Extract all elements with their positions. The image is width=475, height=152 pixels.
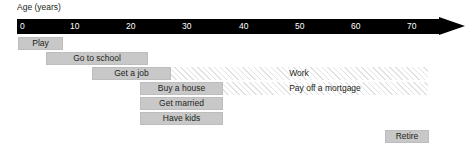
bar-label-retire: Retire: [385, 130, 429, 143]
axis-tick-label-50: 50: [295, 21, 304, 32]
axis-title: Age (years): [17, 2, 61, 13]
right-arrow-icon: [439, 17, 465, 35]
bar-label-play: Play: [18, 37, 63, 50]
bar-label-go-to-school: Go to school: [46, 52, 148, 65]
axis-tick-label-60: 60: [351, 21, 360, 32]
timeline-row-get-a-job-work: Get a job Work: [0, 67, 475, 80]
bar-label-buy-a-house: Buy a house: [140, 82, 223, 95]
bar-label-get-married: Get married: [140, 97, 223, 110]
axis-tick-label-70: 70: [407, 21, 416, 32]
timeline-row-retire: Retire: [0, 130, 475, 143]
axis-tick-label-40: 40: [239, 21, 248, 32]
axis-tick-label-10: 10: [70, 21, 79, 32]
life-events-timeline-figure: Age (years) 0 10 20 30 40 50 60 70 Play …: [0, 0, 475, 152]
age-axis: 0 10 20 30 40 50 60 70: [17, 17, 465, 36]
bar-label-pay-off-a-mortgage: Pay off a mortgage: [222, 82, 428, 95]
timeline-row-buy-a-house-mortgage: Buy a house Pay off a mortgage: [0, 82, 475, 95]
timeline-row-go-to-school: Go to school: [0, 52, 475, 65]
bar-label-have-kids: Have kids: [140, 112, 223, 125]
timeline-row-get-married: Get married: [0, 97, 475, 110]
axis-tick-label-30: 30: [182, 21, 191, 32]
timeline-row-play: Play: [0, 37, 475, 50]
axis-tick-label-20: 20: [126, 21, 135, 32]
axis-bar: [17, 19, 440, 34]
bar-label-work: Work: [170, 67, 428, 80]
bar-label-get-a-job: Get a job: [92, 67, 171, 80]
axis-tick-label-0: 0: [20, 21, 25, 32]
timeline-row-have-kids: Have kids: [0, 112, 475, 125]
